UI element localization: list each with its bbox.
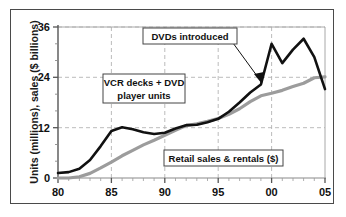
- annotation-retail-sales-rentals: Retail sales & rentals ($): [164, 150, 283, 166]
- x-tick-label-80: 80: [52, 186, 64, 198]
- line-chart: 36 24 12 0 80 85 90 95 00 05 Units (mill…: [0, 0, 346, 217]
- chart-figure: 36 24 12 0 80 85 90 95 00 05 Units (mill…: [0, 0, 346, 217]
- annotation-label-vcr-line2: player units: [117, 90, 170, 101]
- annotation-dvds-introduced: DVDs introduced: [143, 28, 237, 44]
- annotation-vcr-dvd-units: VCR decks + DVD player units: [103, 74, 185, 103]
- annotation-label-retail: Retail sales & rentals ($): [169, 153, 279, 164]
- annotation-label-vcr-line1: VCR decks + DVD: [104, 77, 185, 88]
- x-tick-label-85: 85: [105, 186, 117, 198]
- x-tick-label-00: 00: [265, 186, 277, 198]
- x-tick-label-05: 05: [319, 186, 331, 198]
- y-axis-title: Units (millions), sales ($ billions): [28, 20, 40, 183]
- x-ticks: [58, 178, 325, 183]
- y-ticks: [53, 27, 58, 178]
- x-tick-label-95: 95: [212, 186, 224, 198]
- x-tick-label-90: 90: [159, 186, 171, 198]
- annotation-label-dvds: DVDs introduced: [151, 31, 228, 42]
- y-tick-label-0: 0: [44, 172, 50, 184]
